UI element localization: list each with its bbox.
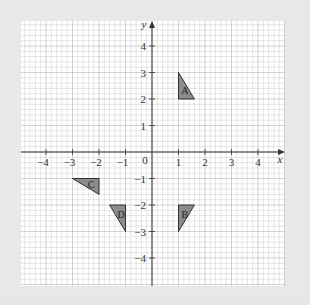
y-tick-label: −4 xyxy=(134,252,146,264)
x-tick-label: 4 xyxy=(255,156,261,168)
y-tick-label: −3 xyxy=(134,226,146,238)
y-tick-label: −2 xyxy=(134,199,146,211)
triangle-label: C xyxy=(88,179,95,190)
x-tick-label: −2 xyxy=(90,156,102,168)
triangle-label: A xyxy=(181,85,189,96)
x-tick-label: 1 xyxy=(176,156,182,168)
y-tick-label: 3 xyxy=(141,67,147,79)
x-tick-label: −3 xyxy=(64,156,76,168)
triangle-label: D xyxy=(118,209,125,220)
y-tick-label: 4 xyxy=(141,40,147,52)
triangle-label: B xyxy=(181,209,188,220)
x-tick-label: 2 xyxy=(202,156,208,168)
x-axis-label: x xyxy=(277,153,283,165)
coordinate-grid: x y 0 −4−3−2−112344321−1−2−3−4 ABCD xyxy=(0,0,310,305)
y-axis-label: y xyxy=(141,18,147,30)
x-tick-label: −1 xyxy=(117,156,129,168)
plot-area xyxy=(21,21,285,286)
x-tick-label: −4 xyxy=(37,156,49,168)
x-tick-label: 3 xyxy=(229,156,235,168)
y-tick-label: 2 xyxy=(141,93,147,105)
y-tick-label: −1 xyxy=(134,173,146,185)
origin-label: 0 xyxy=(142,154,148,166)
diagram-frame: x y 0 −4−3−2−112344321−1−2−3−4 ABCD xyxy=(0,0,303,298)
y-tick-label: 1 xyxy=(141,120,147,132)
